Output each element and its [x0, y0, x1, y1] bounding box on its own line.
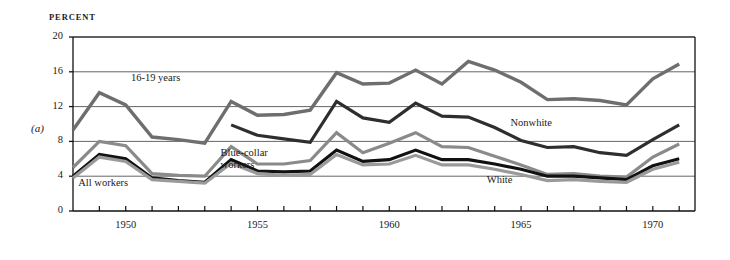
x-tick-label-1965: 1965	[501, 219, 541, 230]
y-tick-label-16: 16	[41, 65, 63, 76]
y-tick-label-12: 12	[41, 100, 63, 111]
series-line-all-workers	[73, 150, 679, 182]
gridlines-group	[73, 37, 695, 176]
x-tick-label-1960: 1960	[369, 219, 409, 230]
y-tick-label-20: 20	[41, 30, 63, 41]
label-all-workers: All workers	[78, 177, 128, 189]
x-axis-ticks-group	[99, 206, 679, 211]
label-blue-collar-workers: Blue-collar workers	[221, 147, 268, 171]
label-white: White	[487, 174, 513, 186]
y-axis-unit-label: PERCENT	[49, 12, 96, 22]
label-16-19-years: 16-19 years	[131, 72, 180, 84]
panel-identifier: (a)	[31, 122, 44, 134]
x-tick-label-1950: 1950	[106, 219, 146, 230]
axis-lines-group	[73, 37, 695, 211]
label-nonwhite: Nonwhite	[511, 117, 552, 129]
x-tick-label-1955: 1955	[237, 219, 277, 230]
y-tick-label-8: 8	[41, 134, 63, 145]
x-tick-label-1970: 1970	[633, 219, 673, 230]
unemployment-rate-chart: PERCENT (a) 048121620 195019551960196519…	[0, 0, 730, 260]
y-tick-label-0: 0	[41, 204, 63, 215]
y-tick-label-4: 4	[41, 169, 63, 180]
